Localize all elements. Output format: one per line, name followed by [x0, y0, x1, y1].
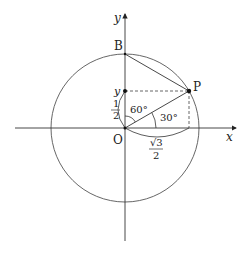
- angle-arc-30: [152, 113, 156, 129]
- segment-bp: [125, 54, 189, 91]
- sqrt3-half-denominator: 2: [153, 150, 159, 161]
- x-axis-label: x: [226, 130, 233, 144]
- sqrt3-half-numerator: √3: [150, 137, 163, 148]
- point-y-label: y: [113, 85, 121, 98]
- point-p-label: P: [193, 80, 201, 94]
- point-b-dot: [124, 53, 126, 55]
- angle-60-label: 60°: [130, 104, 148, 115]
- angle-arc-60: [125, 116, 135, 122]
- half-numerator: 1: [113, 98, 119, 109]
- angle-30-label: 30°: [160, 112, 178, 123]
- half-denominator: 2: [113, 110, 119, 121]
- brace-sqrt3-half: [125, 128, 189, 137]
- y-axis-label: y: [113, 11, 121, 25]
- point-y-dot: [123, 89, 127, 93]
- point-o-dot: [124, 127, 127, 130]
- point-p-dot: [187, 89, 191, 93]
- point-b-label: B: [114, 39, 123, 53]
- unit-circle-diagram: y x B P y O 1 2 √3 2 60° 30°: [0, 0, 249, 260]
- origin-label: O: [113, 133, 123, 147]
